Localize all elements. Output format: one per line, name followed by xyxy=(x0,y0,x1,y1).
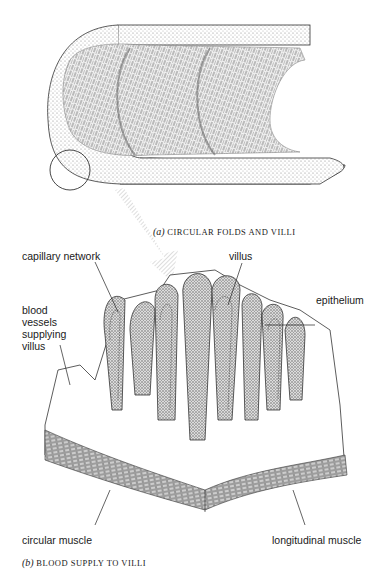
label-blood-vessels-line4: villus xyxy=(22,340,45,352)
figure-a-drawing xyxy=(48,25,345,282)
label-blood-vessels-line2: vessels xyxy=(22,316,57,328)
caption-text: BLOOD SUPPLY TO VILLI xyxy=(36,558,146,568)
figure-b-drawing xyxy=(45,270,347,512)
label-epithelium: epithelium xyxy=(316,294,364,306)
label-blood-vessels-line3: supplying xyxy=(22,328,66,340)
label-capillary-network: capillary network xyxy=(22,250,100,262)
label-longitudinal-muscle: longitudinal muscle xyxy=(272,534,361,546)
caption-prefix: (a) xyxy=(153,226,165,237)
figure-a-caption: (a) CIRCULAR FOLDS AND VILLI xyxy=(153,226,296,237)
caption-prefix: (b) xyxy=(22,557,34,568)
label-villus: villus xyxy=(229,250,252,262)
figure-b-caption: (b) BLOOD SUPPLY TO VILLI xyxy=(22,557,146,568)
illustration xyxy=(0,0,389,572)
label-blood-vessels-line1: blood xyxy=(22,304,48,316)
label-circular-muscle: circular muscle xyxy=(22,534,92,546)
caption-text: CIRCULAR FOLDS AND VILLI xyxy=(167,227,295,237)
